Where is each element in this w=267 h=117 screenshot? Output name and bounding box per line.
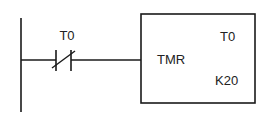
timer-preset: K20 [215, 73, 238, 88]
timer-id: T0 [220, 29, 235, 44]
contact-label: T0 [59, 28, 74, 43]
ladder-diagram: T0 TMR T0 K20 [0, 0, 267, 117]
timer-instruction: TMR [157, 52, 185, 67]
